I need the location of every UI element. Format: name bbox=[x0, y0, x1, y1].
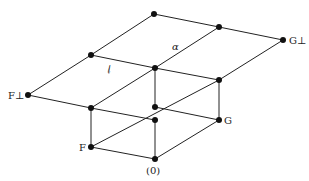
edge-f-perp-d bbox=[28, 95, 91, 108]
node-p bbox=[88, 52, 94, 58]
edge-p-c bbox=[91, 55, 155, 68]
edge-p-top bbox=[91, 14, 154, 55]
node-f bbox=[88, 144, 94, 150]
node-top bbox=[151, 11, 157, 17]
node-f-perp bbox=[25, 92, 31, 98]
node-c bbox=[152, 65, 158, 71]
edge-f-perp-p bbox=[28, 55, 91, 95]
edge-zero-g bbox=[155, 120, 219, 159]
edge-top-q bbox=[154, 14, 219, 27]
edge-d-c bbox=[91, 68, 155, 108]
node-label-g: G bbox=[224, 115, 232, 126]
node-zero bbox=[152, 156, 158, 162]
edge-c-q bbox=[155, 27, 219, 68]
node-e bbox=[152, 117, 158, 123]
node-m bbox=[152, 104, 158, 110]
edge-c-r bbox=[155, 68, 219, 80]
node-label-g-perp: G⊥ bbox=[289, 35, 306, 46]
node-label-f-perp: F⊥ bbox=[8, 90, 24, 101]
node-d bbox=[88, 105, 94, 111]
node-label-zero: (0) bbox=[146, 165, 160, 176]
region-label-script-l: 𝓁 bbox=[104, 62, 116, 75]
node-q bbox=[216, 24, 222, 30]
node-r bbox=[216, 77, 222, 83]
lattice-diagram: F⊥ G⊥ G F (0) 𝓁 α bbox=[0, 0, 309, 181]
region-label-alpha: α bbox=[172, 41, 179, 52]
edge-f-zero bbox=[91, 147, 155, 159]
node-g-perp bbox=[280, 37, 286, 43]
edge-q-g-perp bbox=[219, 27, 283, 40]
node-label-f: F bbox=[79, 142, 86, 153]
edge-r-g-perp bbox=[219, 40, 283, 80]
node-g bbox=[216, 117, 222, 123]
